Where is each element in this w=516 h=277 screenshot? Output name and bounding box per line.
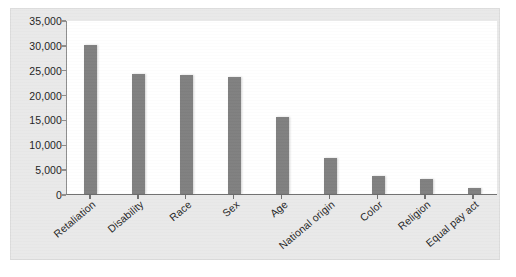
bar [132,74,145,194]
bar [228,77,241,194]
y-axis-tick-mark [61,194,66,196]
x-axis-tick-labels: RetaliationDisabilityRaceSexAgeNational … [66,198,497,260]
y-axis-tick-label: 20,000 [29,90,62,102]
y-axis-tick-label: 35,000 [29,15,62,27]
bar [180,75,193,194]
bar [84,45,97,194]
y-axis-tick-labels: 05,00010,00015,00020,00025,00030,00035,0… [18,8,62,260]
y-axis-tick-mark [61,45,66,47]
plot-area [66,21,497,195]
y-axis-tick-mark [61,70,66,72]
y-axis-tick-mark [61,145,66,147]
bar [468,188,481,194]
bar-chart-figure: 05,00010,00015,00020,00025,00030,00035,0… [0,0,516,277]
bar [372,176,385,194]
y-axis-tick-mark [61,95,66,97]
y-axis-tick-mark [61,169,66,171]
y-axis-tick-label: 30,000 [29,40,62,52]
y-axis-tick-label: 25,000 [29,65,62,77]
chart-panel: 05,00010,00015,00020,00025,00030,00035,0… [10,8,500,260]
y-axis-tick-label: 5,000 [35,164,62,176]
bar [420,179,433,194]
bar [324,158,337,194]
bar [276,117,289,194]
y-axis-tick-mark [61,20,66,22]
y-axis-tick-mark [61,120,66,122]
y-axis-tick-label: 15,000 [29,114,62,126]
y-axis-tick-label: 10,000 [29,139,62,151]
